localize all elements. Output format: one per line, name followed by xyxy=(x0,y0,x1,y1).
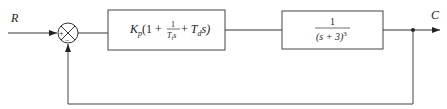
minus-sign: − xyxy=(65,36,70,45)
output-label-c: C xyxy=(431,8,440,22)
svg-text:(s + 3)3: (s + 3)3 xyxy=(316,30,347,43)
svg-text:1: 1 xyxy=(330,16,335,27)
input-label-r: R xyxy=(10,11,19,25)
svg-text:+ Tds): + Tds) xyxy=(181,22,210,38)
frac-numerator: 1 xyxy=(171,20,175,29)
plus-sign: + xyxy=(59,29,64,38)
block-diagram: R + − Kp(1 + 1 Tis + Tds) 1 (s + 3)3 C xyxy=(0,0,447,109)
svg-text:Kp(1 +: Kp(1 + xyxy=(129,22,162,38)
